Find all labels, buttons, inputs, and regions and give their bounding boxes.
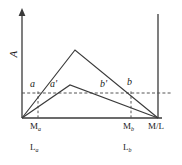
diagram-canvas: [0, 0, 182, 165]
point-label-b: b: [127, 77, 132, 87]
lower-label-lb-sub: b: [129, 147, 132, 153]
axis-tick-mb: Mb: [123, 122, 134, 131]
axis-tick-ma-sub: a: [38, 126, 41, 132]
tall-curve: [22, 50, 158, 118]
lower-label-la-base: L: [30, 142, 36, 152]
point-label-a-prime: a': [50, 79, 57, 89]
y-axis: [19, 8, 26, 118]
figure-container: A a a' b' b Ma Mb M/L La Lb: [0, 0, 182, 165]
axis-tick-mb-sub: b: [131, 126, 134, 132]
axis-tick-ma: Ma: [30, 122, 41, 131]
lower-label-la-sub: a: [36, 147, 39, 153]
point-label-a: a: [30, 79, 35, 89]
point-label-b-prime: b': [100, 79, 107, 89]
axis-tick-mb-base: M: [123, 121, 131, 131]
y-axis-label: A: [7, 43, 19, 65]
lower-label-lb: Lb: [123, 143, 132, 152]
lower-label-la: La: [30, 143, 39, 152]
lower-label-lb-base: L: [123, 142, 129, 152]
axis-tick-m-over-l: M/L: [148, 122, 164, 131]
axis-tick-ma-base: M: [30, 121, 38, 131]
